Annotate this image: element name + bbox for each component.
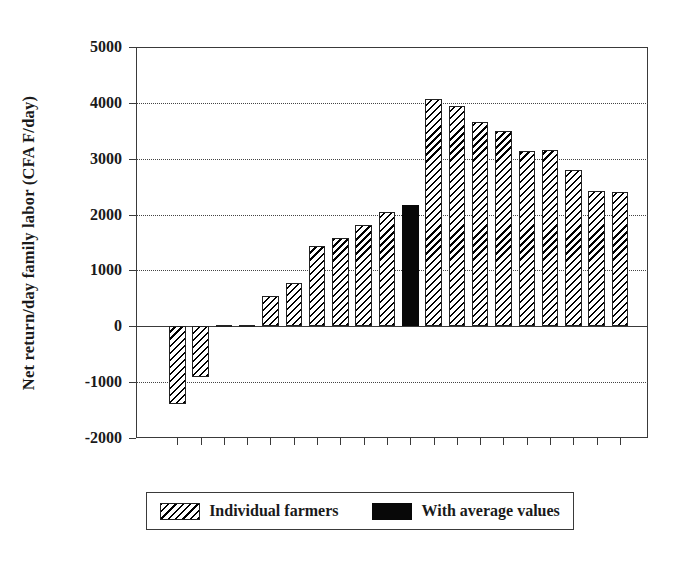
legend-item-with-average-values: With average values [372,502,559,520]
bar-individual-farmer [379,212,396,327]
bar-individual-farmer [192,326,209,376]
bar-individual-farmer [332,238,349,326]
x-axis-tick-mark [480,438,481,445]
x-axis-tick-mark [224,438,225,445]
legend-swatch-hatched-icon [160,503,200,520]
y-axis-label: Net return/day family labor (CFA F/day) [19,96,39,390]
y-axis-tick-mark [129,382,136,383]
y-axis-tick-label: 0 [44,318,122,334]
y-axis-tick-mark [129,326,136,327]
legend-item-individual-farmers: Individual farmers [160,502,338,520]
bar-individual-farmer [286,283,303,326]
y-axis-label-container: Net return/day family labor (CFA F/day) [14,47,44,439]
y-axis-tick-labels: 500040003000200010000-1000-2000 [44,0,122,565]
x-axis-tick-mark [573,438,574,445]
x-axis-tick-mark [620,438,621,445]
x-axis-tick-mark [527,438,528,445]
y-axis-tick-label: 3000 [44,151,122,167]
gridline [136,159,648,160]
y-axis-tick-mark [129,103,136,104]
y-axis-tick-mark [129,159,136,160]
bar-individual-farmer [612,192,629,326]
x-axis-tick-mark [457,438,458,445]
bar-individual-farmer [542,150,559,326]
gridline [136,382,648,383]
x-axis-tick-mark [247,438,248,445]
y-axis-tick-label: -1000 [44,374,122,390]
zero-line [136,326,648,327]
bar-average-values [402,205,419,326]
x-axis-tick-mark [340,438,341,445]
y-axis-tick-mark [129,438,136,439]
x-axis-tick-mark [503,438,504,445]
bar-individual-farmer [262,296,279,326]
y-axis-tick-mark [129,215,136,216]
x-axis-tick-mark [550,438,551,445]
x-axis-tick-mark [201,438,202,445]
x-axis-tick-mark [434,438,435,445]
bar-individual-farmer [472,122,489,327]
y-axis-tick-label: 2000 [44,207,122,223]
x-axis-tick-mark [597,438,598,445]
bar-individual-farmer [355,225,372,327]
chart-figure: Net return/day family labor (CFA F/day) … [0,0,684,565]
y-axis-tick-label: 4000 [44,95,122,111]
y-axis-tick-label: -2000 [44,430,122,446]
chart-legend: Individual farmers With average values [146,492,574,530]
x-axis-tick-mark [294,438,295,445]
legend-swatch-solid-icon [372,503,412,520]
x-axis-tick-mark [410,438,411,445]
bar-individual-farmer [425,99,442,327]
y-axis-tick-label: 5000 [44,39,122,55]
bar-individual-farmer [588,191,605,326]
bar-individual-farmer [565,170,582,326]
plot-area [136,47,648,438]
x-axis-tick-mark [177,438,178,445]
bar-individual-farmer [239,325,256,327]
x-axis-tick-mark [270,438,271,445]
legend-label-individual-farmers: Individual farmers [209,502,338,520]
bar-individual-farmer [169,326,186,404]
bar-individual-farmer [309,246,326,326]
x-axis-tick-mark [387,438,388,445]
x-axis-tick-mark [364,438,365,445]
bar-individual-farmer [216,325,233,327]
x-axis-tick-mark [317,438,318,445]
bar-individual-farmer [495,131,512,326]
y-axis-tick-mark [129,47,136,48]
gridline [136,103,648,104]
y-axis-tick-mark [129,270,136,271]
bar-individual-farmer [519,151,536,326]
legend-label-with-average-values: With average values [421,502,559,520]
y-axis-tick-label: 1000 [44,262,122,278]
bar-individual-farmer [449,106,466,326]
